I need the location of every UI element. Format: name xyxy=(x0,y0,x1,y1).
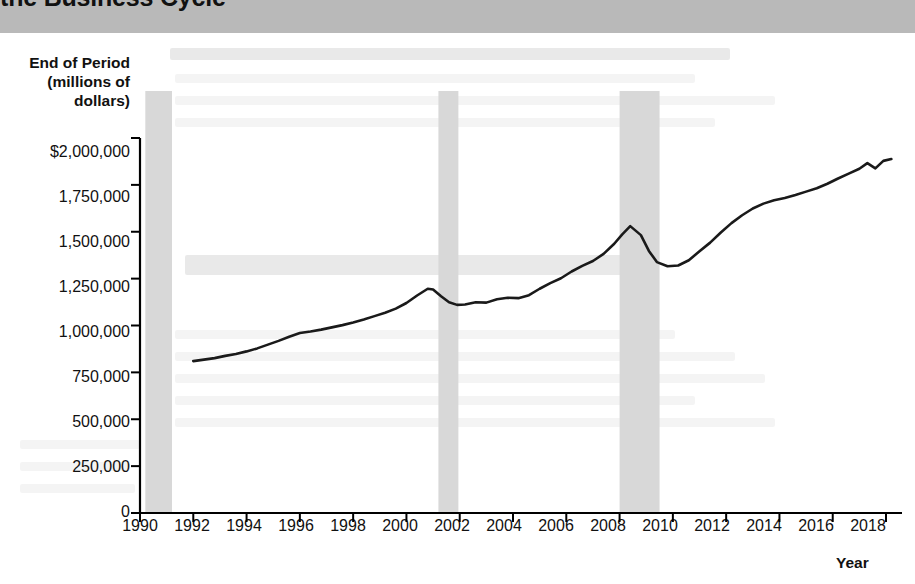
recession-bands xyxy=(145,91,659,513)
data-series-line xyxy=(193,159,891,361)
header-strip: the Business Cycle xyxy=(0,0,915,33)
recession-2008-2009 xyxy=(620,91,660,513)
chart-figure: End of Period (millions of dollars) Year… xyxy=(0,33,915,584)
page-title: the Business Cycle xyxy=(0,0,226,12)
axis-ticks xyxy=(131,138,886,522)
plot-area xyxy=(0,33,915,584)
recession-1990-1991 xyxy=(145,91,172,513)
